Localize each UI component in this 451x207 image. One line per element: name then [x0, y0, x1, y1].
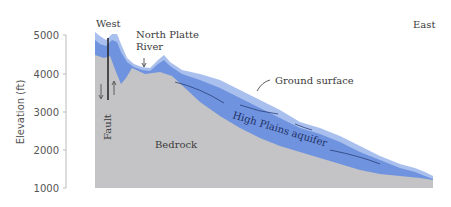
- river-label-1: North Platte: [136, 29, 199, 40]
- ground-surface-arrow: [257, 80, 270, 91]
- ground-surface-label: Ground surface: [275, 75, 354, 86]
- tick-2000: 2000: [34, 145, 59, 156]
- tick-3000: 3000: [34, 107, 59, 118]
- bedrock-label: Bedrock: [155, 139, 198, 150]
- cross-section-diagram: 5000 4000 3000 2000 1000 Elevation (ft) …: [0, 0, 451, 207]
- west-label: West: [96, 18, 121, 29]
- river-arrow: [142, 58, 146, 67]
- tick-1000: 1000: [34, 183, 59, 194]
- y-axis-label: Elevation (ft): [15, 80, 26, 145]
- river-label-2: River: [136, 41, 163, 52]
- tick-5000: 5000: [34, 30, 59, 41]
- east-label: East: [413, 19, 435, 30]
- fault-label: Fault: [102, 114, 113, 140]
- tick-4000: 4000: [34, 69, 59, 80]
